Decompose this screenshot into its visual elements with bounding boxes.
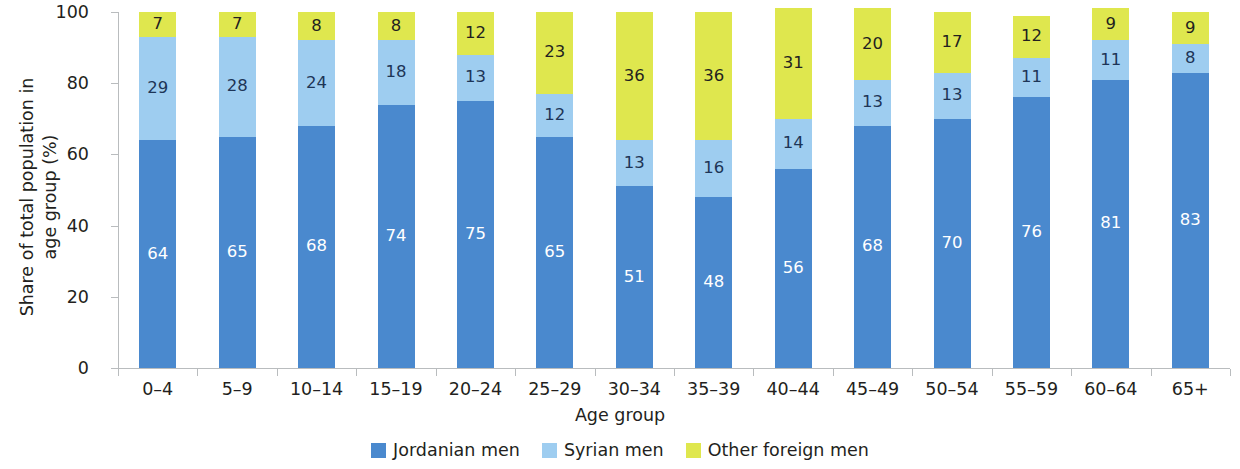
bar-segment[interactable]: 18 xyxy=(378,40,415,104)
bar-stack[interactable]: 701317 xyxy=(934,12,971,368)
bar-value-label: 75 xyxy=(457,226,494,243)
bar-value-label: 83 xyxy=(1172,212,1209,229)
bar-segment[interactable]: 8 xyxy=(298,12,335,40)
bar-segment[interactable]: 8 xyxy=(1172,44,1209,72)
legend-label: Other foreign men xyxy=(708,440,869,460)
bar-segment[interactable]: 64 xyxy=(139,140,176,368)
bar-value-label: 56 xyxy=(775,260,812,277)
bar-stack[interactable]: 761112 xyxy=(1013,12,1050,368)
bar-segment[interactable]: 7 xyxy=(139,12,176,37)
x-tick-mark xyxy=(992,369,993,376)
bar-segment[interactable]: 13 xyxy=(457,55,494,101)
bar-segment[interactable]: 75 xyxy=(457,101,494,368)
bar-value-label: 24 xyxy=(298,75,335,92)
bar-stack[interactable]: 65287 xyxy=(219,12,256,368)
bar-segment[interactable]: 24 xyxy=(298,40,335,125)
bar-stack[interactable]: 561431 xyxy=(775,12,812,368)
legend-item[interactable]: Syrian men xyxy=(542,440,664,460)
bar-segment[interactable]: 70 xyxy=(934,119,971,368)
bar-segment[interactable]: 51 xyxy=(616,186,653,368)
legend-item[interactable]: Other foreign men xyxy=(686,440,869,460)
bar-segment[interactable]: 8 xyxy=(378,12,415,40)
bar-value-label: 68 xyxy=(298,238,335,255)
bar-segment[interactable]: 11 xyxy=(1092,40,1129,79)
x-tick-mark xyxy=(356,369,357,376)
bar-stack[interactable]: 8389 xyxy=(1172,12,1209,368)
bar-segment[interactable]: 13 xyxy=(854,80,891,126)
y-tick-label: 60 xyxy=(29,144,89,164)
legend-label: Syrian men xyxy=(564,440,664,460)
bar-value-label: 11 xyxy=(1013,69,1050,86)
bar-value-label: 9 xyxy=(1092,16,1129,33)
bar-segment[interactable]: 83 xyxy=(1172,73,1209,368)
bar-stack[interactable]: 64297 xyxy=(139,12,176,368)
x-tick-label: 5–9 xyxy=(192,379,282,399)
bar-segment[interactable]: 68 xyxy=(854,126,891,368)
bar-stack[interactable]: 81119 xyxy=(1092,12,1129,368)
bar-value-label: 36 xyxy=(695,68,732,85)
bar-segment[interactable]: 14 xyxy=(775,119,812,169)
y-tick-mark xyxy=(111,12,118,13)
bar-value-label: 16 xyxy=(695,160,732,177)
bar-segment[interactable]: 48 xyxy=(695,197,732,368)
bar-value-label: 68 xyxy=(854,238,891,255)
bar-segment[interactable]: 13 xyxy=(616,140,653,186)
x-tick-mark xyxy=(1071,369,1072,376)
bar-segment[interactable]: 7 xyxy=(219,12,256,37)
bar-value-label: 17 xyxy=(934,34,971,51)
x-tick-mark xyxy=(674,369,675,376)
bar-stack[interactable]: 74188 xyxy=(378,12,415,368)
bar-segment[interactable]: 65 xyxy=(536,137,573,368)
bar-segment[interactable]: 29 xyxy=(139,37,176,140)
bar-value-label: 13 xyxy=(457,69,494,86)
bar-value-label: 7 xyxy=(219,16,256,33)
bar-segment[interactable]: 9 xyxy=(1172,12,1209,44)
bar-segment[interactable]: 17 xyxy=(934,12,971,73)
bar-segment[interactable]: 65 xyxy=(219,137,256,368)
x-tick-mark xyxy=(833,369,834,376)
bar-stack[interactable]: 651223 xyxy=(536,12,573,368)
bar-segment[interactable]: 28 xyxy=(219,37,256,137)
x-tick-mark xyxy=(912,369,913,376)
bar-segment[interactable]: 74 xyxy=(378,105,415,368)
bar-value-label: 13 xyxy=(854,94,891,111)
bar-segment[interactable]: 13 xyxy=(934,73,971,119)
bar-segment[interactable]: 31 xyxy=(775,8,812,118)
legend-item[interactable]: Jordanian men xyxy=(371,440,520,460)
bar-segment[interactable]: 20 xyxy=(854,8,891,79)
y-tick-mark xyxy=(111,83,118,84)
bar-segment[interactable]: 56 xyxy=(775,169,812,368)
bar-stack[interactable]: 511336 xyxy=(616,12,653,368)
bar-segment[interactable]: 68 xyxy=(298,126,335,368)
bar-value-label: 11 xyxy=(1092,52,1129,69)
bar-segment[interactable]: 9 xyxy=(1092,8,1129,40)
x-tick-label: 35–39 xyxy=(669,379,759,399)
bar-segment[interactable]: 12 xyxy=(1013,16,1050,59)
bar-value-label: 70 xyxy=(934,235,971,252)
bar-segment[interactable]: 16 xyxy=(695,140,732,197)
y-tick-label: 100 xyxy=(29,2,89,22)
bar-stack[interactable]: 68248 xyxy=(298,12,335,368)
bar-segment[interactable]: 81 xyxy=(1092,80,1129,368)
bar-segment[interactable]: 36 xyxy=(616,12,653,140)
bar-segment[interactable]: 11 xyxy=(1013,58,1050,97)
x-tick-mark xyxy=(515,369,516,376)
bar-stack[interactable]: 681320 xyxy=(854,12,891,368)
bar-segment[interactable]: 23 xyxy=(536,12,573,94)
bar-value-label: 29 xyxy=(139,80,176,97)
bar-segment[interactable]: 12 xyxy=(536,94,573,137)
bar-value-label: 7 xyxy=(139,16,176,33)
bar-segment[interactable]: 76 xyxy=(1013,97,1050,368)
x-tick-label: 60–64 xyxy=(1066,379,1156,399)
plot-area: 6429765287682487418875131265122351133648… xyxy=(118,12,1230,368)
bar-value-label: 8 xyxy=(1172,50,1209,67)
bar-segment[interactable]: 12 xyxy=(457,12,494,55)
bar-stack[interactable]: 751312 xyxy=(457,12,494,368)
bar-value-label: 65 xyxy=(219,244,256,261)
bar-segment[interactable]: 36 xyxy=(695,12,732,140)
bar-stack[interactable]: 481636 xyxy=(695,12,732,368)
x-tick-label: 20–24 xyxy=(430,379,520,399)
x-tick-mark xyxy=(1230,369,1231,376)
bar-value-label: 64 xyxy=(139,246,176,263)
legend-swatch-icon xyxy=(542,443,557,458)
